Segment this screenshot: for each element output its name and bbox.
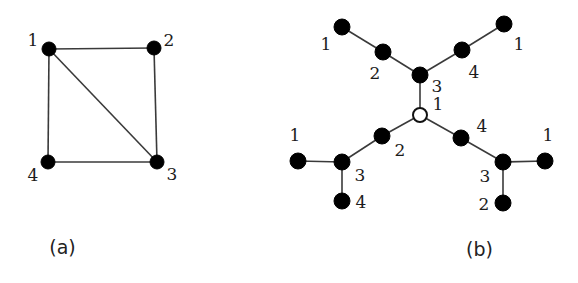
panel-a-caption: (a)	[0, 236, 207, 258]
panel-b: (b)	[289, 0, 578, 283]
panel-b-caption: (b)	[335, 238, 578, 260]
figure-root: 123413214123414321 (a) (b)	[0, 0, 578, 283]
panel-a: (a)	[0, 0, 289, 283]
